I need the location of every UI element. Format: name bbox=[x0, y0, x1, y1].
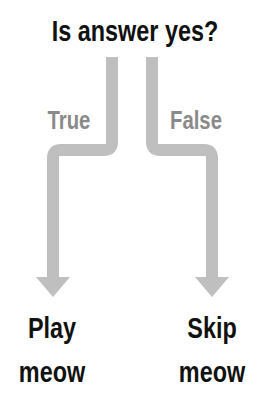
false-outcome: Skip meow bbox=[173, 306, 251, 394]
false-branch-label: False bbox=[165, 105, 227, 135]
false-branch-arrow-icon bbox=[152, 57, 229, 297]
true-outcome-line1: Play bbox=[13, 306, 91, 350]
false-outcome-line1: Skip bbox=[173, 306, 251, 350]
false-outcome-line2: meow bbox=[173, 350, 251, 394]
true-branch-arrow-icon bbox=[36, 57, 112, 297]
true-outcome-line2: meow bbox=[13, 350, 91, 394]
true-branch-label: True bbox=[38, 105, 100, 135]
true-outcome: Play meow bbox=[13, 306, 91, 394]
